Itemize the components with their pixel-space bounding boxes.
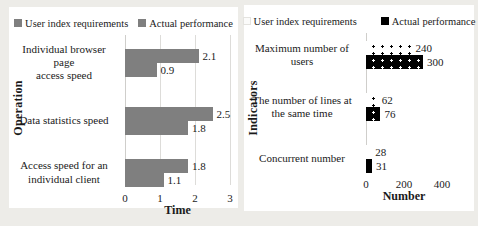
category-row: Maximum number of users240300 bbox=[244, 41, 474, 69]
category-label: Data statistics speed bbox=[9, 114, 125, 127]
performance-bar bbox=[125, 63, 157, 77]
requirement-bar bbox=[366, 41, 412, 55]
category-row: The number of lines at the same time6276 bbox=[244, 93, 474, 121]
bar-line: 31 bbox=[366, 159, 387, 173]
plot-rows: Individual browser page access speed2.10… bbox=[9, 35, 238, 187]
category-label: Access speed for an individual client bbox=[9, 159, 125, 185]
bar-group: 1.81.1 bbox=[125, 159, 206, 187]
bar-group: 2.10.9 bbox=[125, 49, 216, 77]
legend-label: Actual performance bbox=[149, 18, 233, 29]
chart-area: Individual browser page access speed2.10… bbox=[9, 35, 238, 220]
x-tick-label: 0 bbox=[363, 178, 369, 190]
x-tick-label: 1 bbox=[157, 192, 163, 204]
category-row: Data statistics speed2.51.8 bbox=[9, 107, 238, 135]
category-label: Individual browser page access speed bbox=[9, 43, 125, 83]
plot-rows: Maximum number of users240300The number … bbox=[244, 33, 474, 173]
legend: User index requirementsActual performanc… bbox=[9, 7, 238, 31]
right-chart-panel: User index requirementsActual performanc… bbox=[244, 5, 474, 211]
value-label: 1.8 bbox=[192, 122, 206, 134]
performance-bar bbox=[125, 173, 164, 187]
bar-line: 2.5 bbox=[125, 107, 230, 121]
legend: User index requirementsActual performanc… bbox=[244, 5, 474, 29]
value-label: 31 bbox=[376, 160, 387, 172]
x-axis-title: Number bbox=[383, 189, 426, 204]
x-axis-title: Time bbox=[164, 203, 190, 218]
bar-line: 240 bbox=[366, 41, 444, 55]
legend-item: User index requirements bbox=[243, 16, 357, 27]
value-label: 2.1 bbox=[203, 50, 217, 62]
bar-line: 0.9 bbox=[125, 63, 216, 77]
bar-group: 2.51.8 bbox=[125, 107, 230, 135]
value-label: 0.9 bbox=[161, 64, 175, 76]
x-axis: Number 0200400 bbox=[244, 178, 474, 206]
value-label: 76 bbox=[384, 108, 395, 120]
bar-line: 76 bbox=[366, 107, 395, 121]
requirement-bar bbox=[366, 93, 378, 107]
bar-line: 1.8 bbox=[125, 121, 230, 135]
legend-swatch-icon bbox=[14, 19, 22, 27]
bar-group: 2831 bbox=[366, 145, 387, 173]
bar-line: 300 bbox=[366, 55, 444, 69]
x-tick-label: 400 bbox=[434, 178, 451, 190]
requirement-bar bbox=[125, 49, 199, 63]
legend-swatch-icon bbox=[138, 19, 146, 27]
category-row: Access speed for an individual client1.8… bbox=[9, 159, 238, 187]
left-chart-panel: User index requirementsActual performanc… bbox=[9, 7, 238, 208]
category-label: Maximum number of users bbox=[244, 42, 366, 68]
requirement-bar bbox=[366, 145, 371, 159]
x-axis: Time 0123 bbox=[9, 192, 238, 220]
value-label: 2.5 bbox=[217, 108, 231, 120]
bar-line: 62 bbox=[366, 93, 395, 107]
value-label: 28 bbox=[375, 146, 386, 158]
x-tick-label: 0 bbox=[122, 192, 128, 204]
category-row: Individual browser page access speed2.10… bbox=[9, 43, 238, 83]
bar-group: 6276 bbox=[366, 93, 395, 121]
x-tick-label: 200 bbox=[396, 178, 413, 190]
bar-group: 240300 bbox=[366, 41, 444, 69]
bar-line: 1.8 bbox=[125, 159, 206, 173]
value-label: 1.1 bbox=[168, 174, 182, 186]
performance-bar bbox=[366, 107, 380, 121]
requirement-bar bbox=[125, 159, 188, 173]
value-label: 300 bbox=[427, 56, 444, 68]
performance-bar bbox=[366, 159, 372, 173]
legend-swatch-icon bbox=[243, 17, 251, 25]
x-tick-label: 3 bbox=[227, 192, 233, 204]
figure: User index requirementsActual performanc… bbox=[0, 0, 478, 226]
performance-bar bbox=[366, 55, 423, 69]
value-label: 62 bbox=[382, 94, 393, 106]
legend-item: Actual performance bbox=[381, 16, 476, 27]
chart-area: Maximum number of users240300The number … bbox=[244, 33, 474, 206]
requirement-bar bbox=[125, 107, 213, 121]
bar-line: 28 bbox=[366, 145, 387, 159]
legend-item: User index requirements bbox=[14, 18, 128, 29]
legend-item: Actual performance bbox=[138, 18, 233, 29]
legend-label: User index requirements bbox=[254, 16, 357, 27]
category-label: The number of lines at the same time bbox=[244, 94, 366, 120]
category-row: Concurrent number2831 bbox=[244, 145, 474, 173]
bar-line: 2.1 bbox=[125, 49, 216, 63]
value-label: 240 bbox=[416, 42, 433, 54]
performance-bar bbox=[125, 121, 188, 135]
legend-label: User index requirements bbox=[25, 18, 128, 29]
value-label: 1.8 bbox=[192, 160, 206, 172]
x-tick-label: 2 bbox=[192, 192, 198, 204]
legend-swatch-icon bbox=[381, 17, 389, 25]
category-label: Concurrent number bbox=[244, 152, 366, 165]
bar-line: 1.1 bbox=[125, 173, 206, 187]
legend-label: Actual performance bbox=[392, 16, 476, 27]
